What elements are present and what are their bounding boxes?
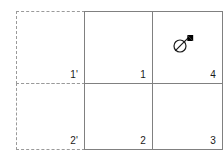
no-drop-cursor-icon: [171, 32, 195, 56]
cell-label-4: 4: [210, 69, 216, 80]
cell-label-1-prime: 1': [70, 69, 78, 80]
cell-label-2: 2: [140, 135, 146, 146]
cell-1[interactable]: 1: [84, 11, 153, 84]
cell-2-prime[interactable]: 2': [16, 83, 85, 150]
cell-4[interactable]: 4: [152, 11, 223, 84]
cell-2[interactable]: 2: [84, 83, 153, 150]
cell-label-1: 1: [140, 69, 146, 80]
cell-label-3: 3: [210, 135, 216, 146]
cell-label-2-prime: 2': [70, 135, 78, 146]
diagram-canvas: 1' 2' 1 2 4 3: [0, 0, 224, 155]
cell-1-prime[interactable]: 1': [16, 11, 85, 84]
cell-3[interactable]: 3: [152, 83, 223, 150]
